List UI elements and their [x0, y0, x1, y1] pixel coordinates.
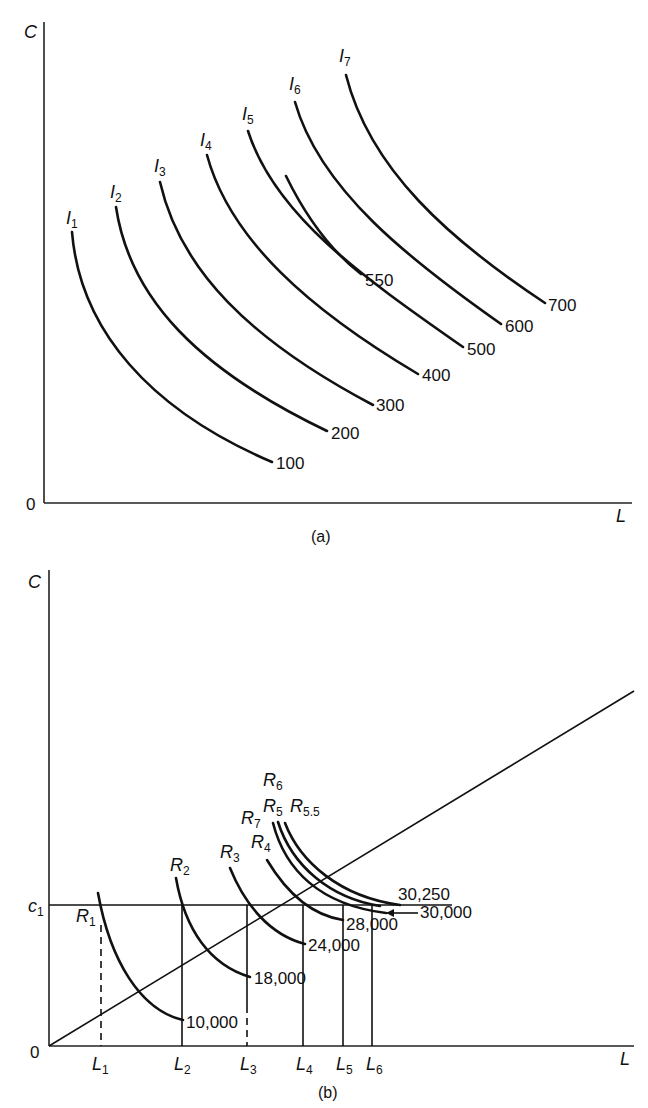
- curve-i55: [286, 176, 361, 274]
- curve-i2: [116, 207, 327, 431]
- value-labels-b: 10,000 18,000 24,000 28,000 30,000 30,25…: [186, 885, 472, 1032]
- svg-text:R7: R7: [241, 808, 261, 831]
- curve-i1: [72, 232, 272, 462]
- curve-i7: [346, 75, 545, 303]
- svg-text:R3: R3: [220, 842, 240, 865]
- svg-text:100: 100: [276, 454, 304, 473]
- svg-text:I5: I5: [242, 104, 254, 127]
- curve-r1: [98, 893, 183, 1020]
- y-axis-label-b: C: [28, 572, 42, 592]
- svg-text:I1: I1: [66, 208, 78, 231]
- caption-a: (a): [311, 528, 331, 545]
- svg-text:30,250: 30,250: [398, 885, 450, 904]
- caption-b: (b): [318, 1084, 338, 1101]
- svg-text:I2: I2: [110, 182, 122, 205]
- svg-text:R4: R4: [251, 832, 271, 855]
- svg-text:R2: R2: [170, 855, 190, 878]
- figure: C 0 L I1 I2 I3 I4 I5 I6 I7 100 200 300 4…: [0, 0, 648, 1108]
- svg-text:300: 300: [376, 396, 404, 415]
- svg-text:I6: I6: [289, 74, 301, 97]
- expansion-ray: [49, 691, 634, 1046]
- svg-text:18,000: 18,000: [254, 969, 306, 988]
- origin-a: 0: [26, 495, 35, 514]
- svg-text:R5.5: R5.5: [290, 796, 320, 819]
- svg-text:I7: I7: [339, 46, 351, 69]
- svg-text:400: 400: [422, 366, 450, 385]
- svg-text:10,000: 10,000: [186, 1013, 238, 1032]
- svg-text:L3: L3: [240, 1054, 257, 1077]
- svg-text:L6: L6: [366, 1054, 383, 1077]
- svg-text:L4: L4: [296, 1054, 313, 1077]
- svg-text:L5: L5: [336, 1054, 353, 1077]
- svg-text:R1: R1: [76, 906, 96, 929]
- curve-i3: [160, 182, 373, 405]
- svg-text:500: 500: [467, 340, 495, 359]
- curve-i6: [295, 102, 501, 324]
- curve-i5: [248, 131, 463, 347]
- c1-label: c1: [28, 896, 44, 919]
- svg-text:28,000: 28,000: [346, 915, 398, 934]
- panel-a: C 0 L I1 I2 I3 I4 I5 I6 I7 100 200 300 4…: [24, 22, 632, 545]
- x-tick-labels-b: L1 L2 L3 L4 L5 L6: [92, 1054, 383, 1077]
- svg-text:200: 200: [331, 424, 359, 443]
- y-axis-label-a: C: [24, 22, 38, 42]
- svg-text:R6: R6: [263, 770, 283, 793]
- svg-text:550: 550: [365, 271, 393, 290]
- svg-text:L2: L2: [174, 1054, 191, 1077]
- curve-i4: [207, 155, 418, 374]
- svg-text:R5: R5: [263, 796, 283, 819]
- curve-r3: [230, 868, 305, 944]
- value-labels-a: 100 200 300 400 500 550 600 700: [276, 271, 576, 473]
- svg-text:24,000: 24,000: [308, 936, 360, 955]
- svg-text:30,000: 30,000: [420, 903, 472, 922]
- svg-text:L1: L1: [92, 1054, 109, 1077]
- svg-text:I3: I3: [154, 156, 166, 179]
- x-axis-label-a: L: [616, 506, 626, 526]
- origin-b: 0: [30, 1043, 39, 1062]
- svg-text:I4: I4: [200, 130, 212, 153]
- svg-text:600: 600: [505, 317, 533, 336]
- x-axis-label-b: L: [620, 1049, 630, 1069]
- svg-text:700: 700: [548, 296, 576, 315]
- panel-b: C 0 L c1 R1 R2 R3 R4 R7: [28, 570, 634, 1101]
